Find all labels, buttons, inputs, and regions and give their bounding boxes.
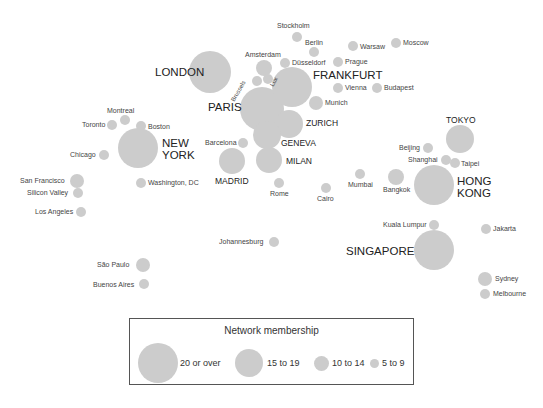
label-sanfrancisco: San Francisco [20,177,65,185]
bubble-stockholm [292,32,302,42]
bubble-chicago [99,150,109,160]
bubble-munich [309,96,323,110]
label-milan: MILAN [286,157,312,165]
label-siliconvalley: Silicon Valley [27,189,68,197]
bubble-sanfrancisco [70,174,84,188]
bubble-newyork [118,128,158,168]
bubble-johannesburg [269,237,279,247]
bubble-melbourne [480,289,490,299]
legend-bubble-tiny [370,359,379,368]
label-toronto: Toronto [82,121,105,129]
bubble-vienna [333,83,343,93]
bubble-toronto [107,120,117,130]
legend-label: 5 to 9 [382,358,405,368]
bubble-buenosaires [139,279,149,289]
label-mumbai: Mumbai [348,181,373,189]
bubble-singapore [414,230,454,270]
label-munich: Munich [325,99,348,107]
label-amsterdam: Amsterdam [245,51,281,59]
label-cairo: Cairo [317,195,334,203]
bubble-milan [256,147,282,173]
label-madrid: MADRID [215,177,249,185]
label-washington: Washington, DC [148,179,199,187]
label-hongkong-line2: KONG [457,187,491,199]
label-warsaw: Warsaw [360,43,385,51]
label-frankfurt: FRANKFURT [313,69,382,81]
label-zurich: ZURICH [306,119,338,127]
label-boston: Boston [148,123,170,131]
bubble-dusseldorf [280,58,290,68]
bubble-prague [333,57,343,67]
label-moscow: Moscow [403,39,429,47]
bubble-siliconvalley [73,188,83,198]
label-budapest: Budapest [384,84,414,92]
legend-bubble-large [138,343,178,383]
label-berlin: Berlin [305,39,323,47]
label-johannesburg: Johannesburg [219,238,263,246]
bubble-washington [136,178,146,188]
bubble-mumbai [355,169,365,179]
label-newyork-line1: NEW [162,137,189,149]
bubble-cairo [321,183,331,193]
bubble-boston [136,121,146,131]
label-paris: PARIS [208,101,242,113]
label-prague: Prague [345,58,368,66]
label-barcelona: Barcelona [205,139,237,147]
label-saopaulo: São Paulo [97,261,129,269]
bubble-hongkong [414,165,454,205]
bubble-kualalumpur [429,220,439,230]
bubble-budapest [372,83,382,93]
label-sydney: Sydney [495,275,518,283]
legend-bubble-small [314,356,329,371]
bubble-bangkok [388,169,404,185]
bubble-rome [274,178,284,188]
label-hongkong-line1: HONG [457,175,492,187]
bubble-beijing [423,143,433,153]
bubble-madrid [219,148,245,174]
label-taipei: Taipei [461,160,479,168]
bubble-saopaulo [136,258,150,272]
bubble-brussels [252,76,262,86]
label-dusseldorf: Düsseldorf [292,59,325,67]
label-newyork-line2: YORK [162,149,195,161]
label-rome: Rome [270,190,289,198]
label-kualalumpur: Kuala Lumpur [383,221,427,229]
bubble-jakarta [481,224,491,234]
legend-label: 10 to 14 [332,358,365,368]
label-singapore: SINGAPORE [346,245,414,257]
bubble-tokyo [446,125,474,153]
bubble-barcelona [238,138,248,148]
label-beijing: Beijing [399,144,420,152]
bubble-taipei [450,158,460,168]
city-network-bubble-map: LONDON PARIS FRANKFURT NEW YORK HONG KON… [0,0,543,408]
bubble-warsaw [348,41,358,51]
legend-bubble-medium [235,349,263,377]
label-losangeles: Los Angeles [35,208,73,216]
legend-label: 15 to 19 [267,358,300,368]
label-geneva: GENEVA [281,139,316,147]
bubble-frankfurt [272,67,312,107]
label-stockholm: Stockholm [277,22,310,30]
label-jakarta: Jakarta [493,225,516,233]
label-buenosaires: Buenos Aires [93,281,134,289]
label-melbourne: Melbourne [493,290,526,298]
label-chicago: Chicago [70,151,96,159]
legend-label: 20 or over [180,358,221,368]
label-bangkok: Bangkok [383,186,410,194]
bubble-berlin [309,47,319,57]
legend-box: Network membership 20 or over 15 to 19 1… [129,318,414,385]
label-montreal: Montreal [107,107,134,115]
bubble-geneva [253,121,281,149]
bubble-losangeles [76,207,86,217]
label-shanghai: Shanghai [408,156,438,164]
legend-title: Network membership [130,325,413,336]
label-london: LONDON [155,66,204,78]
bubble-montreal [120,115,130,125]
bubble-moscow [391,38,401,48]
label-vienna: Vienna [345,84,367,92]
bubble-sydney [478,272,492,286]
label-tokyo: TOKYO [446,116,476,124]
